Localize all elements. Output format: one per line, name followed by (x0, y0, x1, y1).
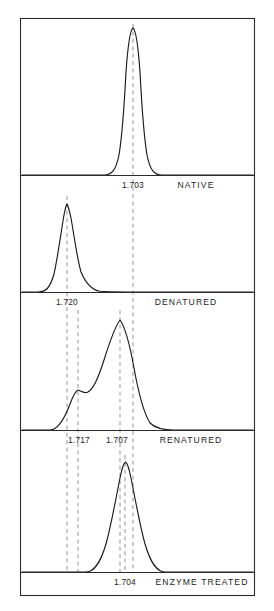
density-label-renatured-b: 1.707 (106, 435, 128, 445)
trace-native (22, 28, 253, 175)
panel-denatured: 1.720 DENATURED (21, 204, 254, 307)
panel-label-denatured: DENATURED (155, 297, 218, 307)
density-label-native: 1.703 (122, 180, 144, 190)
panel-label-renatured: RENATURED (160, 435, 223, 445)
trace-renatured (22, 320, 253, 430)
density-label-denatured: 1.720 (56, 297, 78, 307)
trace-enzyme-treated (22, 462, 253, 572)
densitometer-figure: 1.703 NATIVE 1.720 DENATURED 1.717 1.707… (0, 0, 274, 611)
trace-denatured (22, 204, 253, 292)
panel-enzyme-treated: 1.704 ENZYME TREATED (21, 462, 254, 587)
panel-label-native: NATIVE (177, 180, 214, 190)
panel-native: 1.703 NATIVE (21, 28, 254, 190)
panel-renatured: 1.717 1.707 RENATURED (21, 320, 254, 445)
density-label-enzyme-treated: 1.704 (114, 577, 136, 587)
panel-label-enzyme-treated: ENZYME TREATED (156, 577, 249, 587)
density-label-renatured-a: 1.717 (68, 435, 90, 445)
